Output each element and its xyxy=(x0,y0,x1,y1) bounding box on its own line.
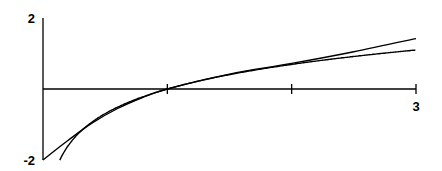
series-ln-line xyxy=(60,50,416,160)
y-tick-label: -2 xyxy=(23,153,35,168)
y-tick-label: 2 xyxy=(28,11,35,26)
series-approximation-line xyxy=(43,39,416,160)
series-group xyxy=(43,39,416,161)
chart: 32-2 xyxy=(0,0,442,171)
axes xyxy=(43,18,416,160)
x-tick-label: 3 xyxy=(412,99,419,114)
